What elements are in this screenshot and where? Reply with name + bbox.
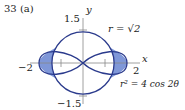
y-axis-label: y (86, 5, 92, 15)
y-tick-top: 1.5 (64, 14, 80, 24)
x-axis-label: x (142, 54, 148, 64)
figure-label: 33 (a) (4, 4, 34, 14)
lemniscate-label: r² = 4 cos 2θ (120, 80, 179, 89)
circle-label: r = √2 (108, 24, 140, 34)
x-tick-right: 2 (133, 66, 139, 76)
y-tick-bottom: −1.5 (57, 99, 81, 109)
x-tick-left: −2 (18, 63, 33, 73)
polar-figure: 33 (a) 1.5 y −2 2 x −1.5 r = √2 r² = 4 c… (0, 0, 185, 110)
plot-canvas (0, 0, 185, 110)
